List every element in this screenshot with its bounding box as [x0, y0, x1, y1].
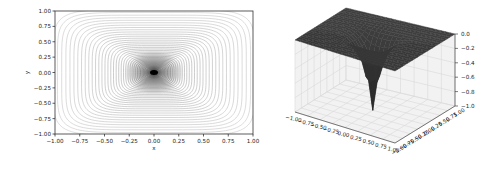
- figure: −1.00−0.75−0.50−0.250.000.250.500.751.00…: [0, 0, 502, 170]
- surface-3d-plot: −1.00−0.75−0.50−0.250.000.250.500.751.00…: [285, 8, 475, 156]
- surface-x-tick-label: 0.75: [374, 142, 387, 150]
- y-axis-label: y: [24, 70, 31, 74]
- x-tick-label: −0.25: [121, 138, 139, 144]
- y-tick-label: 0.00: [39, 70, 52, 76]
- y-tick-label: −0.50: [34, 100, 52, 106]
- x-tick-label: −1.00: [46, 138, 64, 144]
- surface-z-tick-label: −0.2: [461, 45, 475, 51]
- x-axis-label: x: [152, 145, 156, 151]
- x-tick-label: 0.50: [197, 138, 210, 144]
- y-tick-label: 0.25: [39, 54, 52, 60]
- y-tick-label: 1.00: [39, 8, 52, 14]
- surface-x-tick-label: 0.25: [349, 134, 362, 142]
- x-tick-label: 0.75: [222, 138, 235, 144]
- x-tick-label: −0.50: [96, 138, 114, 144]
- contour-plot: −1.00−0.75−0.50−0.250.000.250.500.751.00…: [24, 8, 260, 151]
- x-tick-label: 0.00: [148, 138, 161, 144]
- y-tick-label: 0.75: [39, 23, 52, 29]
- contour-lines: [53, 10, 255, 135]
- x-tick-label: −0.75: [71, 138, 89, 144]
- y-tick-label: −1.00: [34, 131, 52, 137]
- surface-x-tick-label: 0.50: [362, 138, 376, 146]
- y-tick-label: −0.75: [34, 116, 52, 122]
- surface-z-tick-label: 0.0: [461, 31, 470, 37]
- y-tick-label: 0.50: [39, 39, 52, 45]
- y-tick-label: −0.25: [34, 85, 52, 91]
- surface-z-tick-label: −1.0: [461, 103, 475, 109]
- x-tick-label: 1.00: [247, 138, 260, 144]
- x-tick-label: 0.25: [173, 138, 186, 144]
- surface-x-tick-label: 0.00: [337, 130, 351, 138]
- surface-z-tick-label: −0.8: [461, 89, 475, 95]
- surface-z-tick-label: −0.4: [461, 60, 475, 66]
- surface-z-tick-label: −0.6: [461, 74, 475, 80]
